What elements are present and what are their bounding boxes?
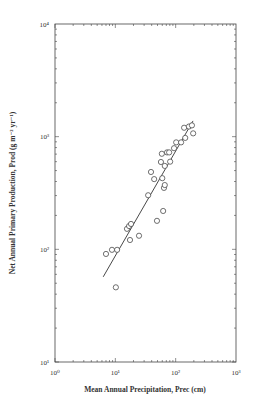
y-tick-label: 10² — [40, 246, 49, 254]
data-point — [127, 237, 132, 242]
data-point — [189, 123, 194, 128]
x-tick-label: 10¹ — [111, 369, 120, 377]
x-tick-label: 10² — [171, 369, 180, 377]
data-point — [154, 218, 159, 223]
scatter-chart: 10⁰10¹10²10³10¹10²10³10⁴ Mean Annual Pre… — [0, 0, 254, 406]
data-point — [113, 285, 118, 290]
data-point — [148, 169, 153, 174]
data-points — [103, 123, 195, 290]
data-point — [174, 140, 179, 145]
data-point — [109, 247, 114, 252]
data-point — [162, 182, 167, 187]
plot-frame — [55, 24, 236, 362]
data-point — [136, 233, 141, 238]
data-point — [171, 146, 176, 151]
data-point — [159, 151, 164, 156]
data-point — [161, 208, 166, 213]
data-point — [103, 251, 108, 256]
x-tick-label: 10³ — [231, 369, 240, 377]
x-axis-label: Mean Annual Precipitation, Prec (cm) — [84, 385, 206, 394]
data-point — [167, 150, 172, 155]
data-point — [146, 193, 151, 198]
data-point — [183, 135, 188, 140]
y-tick-label: 10⁴ — [40, 21, 50, 29]
axis-ticks — [55, 24, 236, 362]
data-point — [152, 177, 157, 182]
data-point — [158, 159, 163, 164]
y-axis-label: Net Annual Primary Production, Prod (g m… — [8, 111, 17, 274]
data-point — [178, 140, 183, 145]
data-point — [160, 176, 165, 181]
data-point — [182, 125, 187, 130]
tick-labels: 10⁰10¹10²10³10¹10²10³10⁴ — [40, 21, 241, 378]
y-tick-label: 10³ — [40, 133, 49, 141]
data-point — [191, 131, 196, 136]
data-point — [115, 247, 120, 252]
x-tick-label: 10⁰ — [50, 369, 60, 377]
y-tick-label: 10¹ — [40, 359, 49, 367]
data-point — [168, 159, 173, 164]
data-point — [128, 221, 133, 226]
